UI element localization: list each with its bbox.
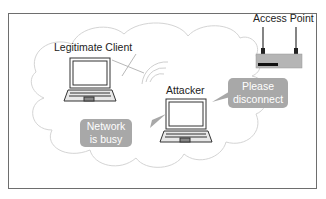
network-busy-line2: is busy [80, 133, 132, 146]
please-disconnect-bubble: Please disconnect [228, 78, 288, 108]
attacker-laptop-icon [160, 99, 212, 142]
access-point-label: Access Point [253, 13, 314, 24]
blocked-signal-icon [112, 54, 144, 76]
attacker-label: Attacker [166, 85, 205, 96]
network-busy-bubble-tail [150, 114, 166, 128]
network-busy-bubble: Network is busy [80, 119, 132, 147]
wifi-waves-icon [142, 62, 168, 84]
legitimate-client-label: Legitimate Client [54, 42, 132, 53]
please-disconnect-line1: Please [228, 80, 288, 93]
legitimate-client-laptop-icon [64, 58, 116, 101]
please-disconnect-line2: disconnect [228, 93, 288, 106]
network-busy-line1: Network [80, 120, 132, 133]
access-point-router-icon [256, 27, 302, 68]
